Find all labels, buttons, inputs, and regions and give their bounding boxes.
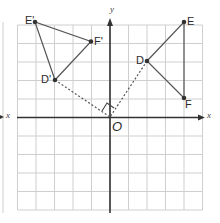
label-d: D — [136, 55, 144, 66]
coordinate-grid — [0, 0, 220, 223]
point-f-prime — [89, 39, 94, 44]
label-d-prime: D' — [41, 74, 51, 85]
construction-lines — [55, 61, 147, 117]
x-axis-arrow-icon — [198, 115, 205, 121]
triangle-image — [35, 22, 91, 80]
y-axis-label: y — [110, 5, 114, 14]
label-e-prime: E' — [25, 15, 34, 26]
origin-label: O — [112, 120, 122, 133]
point-e — [182, 20, 187, 25]
label-e: E — [187, 16, 194, 27]
rotation-diagram: E' F' D' D E F y x x O — [0, 0, 220, 223]
y-axis-arrow-icon — [107, 18, 113, 26]
right-angle-marker — [102, 103, 114, 111]
x-axis-label: x — [207, 111, 211, 120]
label-f-prime: F' — [94, 36, 103, 47]
point-d-prime — [53, 78, 58, 83]
partial-left-x-axis-label: x — [6, 111, 10, 120]
label-f: F — [185, 99, 192, 110]
point-d — [145, 59, 150, 64]
